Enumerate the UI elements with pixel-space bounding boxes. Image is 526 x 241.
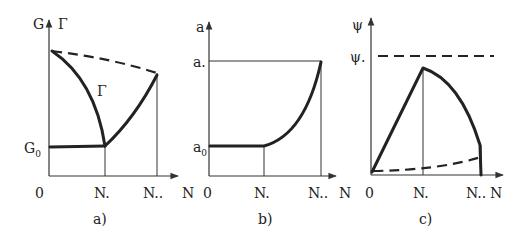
tick-label-Nstar-b: N.: [254, 185, 270, 201]
tick-label-Nstar-c: N.: [413, 185, 429, 201]
tick-label-Nstarstar-a: N..: [143, 185, 163, 201]
curve-label-Gamma: Γ: [97, 83, 107, 99]
tick-label-astar: a.: [193, 54, 206, 70]
panel-c: ψ ψ. 0 N. N.. N c): [350, 17, 503, 227]
tick-label-psistar: ψ.: [350, 49, 365, 65]
caption-c: c): [419, 211, 432, 227]
figure-canvas: G Γ G0 0 N. N.. N Γ a) a a. a0 0 N. N.. …: [0, 0, 526, 241]
origin-label-b: 0: [203, 185, 212, 201]
panel-a: G Γ G0 0 N. N.. N Γ a): [24, 16, 194, 227]
x-axis-label-a: N: [182, 185, 194, 201]
y-axis-label-Gamma: Γ: [58, 16, 68, 32]
tick-label-a0: a0: [193, 139, 207, 158]
curve-G-rise: [105, 75, 157, 146]
panel-b: a a. a0 0 N. N.. N b): [193, 19, 351, 227]
y-axis-label-psi: ψ: [352, 17, 363, 33]
origin-label-c: 0: [365, 185, 374, 201]
tick-label-G0: G0: [24, 140, 41, 159]
curve-a: [210, 62, 321, 146]
origin-label-a: 0: [35, 185, 44, 201]
curve-psi: [372, 68, 481, 175]
tick-label-Nstar-a: N.: [94, 185, 110, 201]
caption-b: b): [258, 211, 272, 227]
x-axis-label-b: N: [339, 185, 351, 201]
tick-label-Nstarstar-c: N..: [466, 185, 486, 201]
y-axis-label-a: a: [196, 19, 204, 35]
y-axis-label-G: G: [33, 16, 44, 32]
curve-G-flat: [50, 146, 105, 147]
tick-label-Nstarstar-b: N..: [308, 185, 328, 201]
caption-a: a): [93, 211, 107, 227]
curve-lower-dashed: [373, 157, 481, 171]
x-axis-label-c: N: [490, 185, 502, 201]
